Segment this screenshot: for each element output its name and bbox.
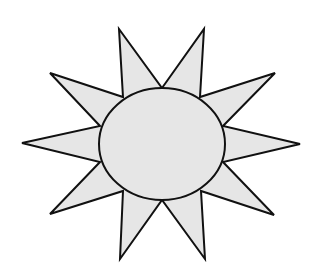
sun-body (99, 88, 225, 200)
sun-icon (0, 0, 317, 275)
sun-diagram (0, 0, 317, 275)
